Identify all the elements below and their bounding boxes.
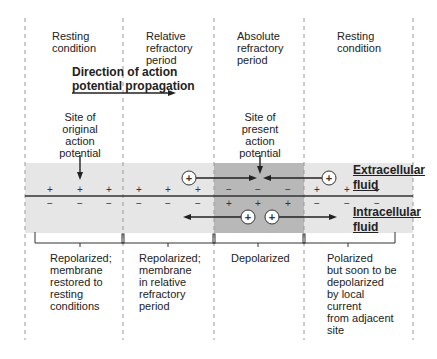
status-line: by local [327,288,397,300]
svg-text:+: + [226,198,232,209]
svg-text:+: + [344,184,350,195]
svg-text:−: − [47,198,53,209]
svg-text:−: − [285,184,291,195]
status-line: restored to [50,276,112,288]
status-line: conditions [50,300,112,312]
site-line: Site of [40,111,120,123]
status-line: Polarized [327,252,397,264]
svg-text:+: + [255,198,261,209]
title-line: Resting [337,30,381,42]
status-line: membrane [50,264,112,276]
svg-text:−: − [226,184,232,195]
status-line: resting [50,288,112,300]
site-line: action [220,135,300,147]
svg-text:+: + [106,184,112,195]
direction-line-2: potential propagation [72,79,195,93]
region-title-absolute-refractory: Absolute refractory period [237,30,283,66]
site-line: potential [220,147,300,159]
status-line: but soon to be [327,264,397,276]
site-line: potential [40,147,120,159]
region-title-resting-1: Resting condition [52,30,96,54]
status-line: depolarized [327,276,397,288]
svg-text:+: + [285,198,291,209]
site-original-label: Site of original action potential [40,111,120,159]
status-relative-refractory: Repolarized; membrane in relative refrac… [139,252,201,312]
region-title-relative-refractory: Relative refractory period [146,30,192,66]
site-present-label: Site of present action potential [220,111,300,159]
title-line: refractory [237,42,283,54]
direction-line-1: Direction of action [72,65,195,79]
svg-text:+: + [314,184,320,195]
status-line: from adjacent [327,312,397,324]
title-line: Relative [146,30,192,42]
region-title-resting-2: Resting condition [337,30,381,54]
direction-label: Direction of action potential propagatio… [72,65,195,93]
svg-text:−: − [344,198,350,209]
intracellular-fluid-label: Intracellular fluid [353,205,421,235]
status-line: membrane [139,264,201,276]
svg-text:−: − [106,198,112,209]
svg-text:+: + [47,184,53,195]
status-line: Repolarized; [50,252,112,264]
status-line: refractory [139,288,201,300]
status-resting-1: Repolarized; membrane restored to restin… [50,252,112,312]
svg-text:−: − [165,198,171,209]
title-line: condition [52,42,96,54]
title-line: Absolute [237,30,283,42]
status-resting-2: Polarized but soon to be depolarized by … [327,252,397,336]
svg-text:−: − [255,184,261,195]
svg-text:+: + [195,184,201,195]
svg-text:−: − [77,198,83,209]
status-line: period [139,300,201,312]
fluid-line: fluid [353,220,421,235]
svg-text:−: − [314,198,320,209]
svg-text:+: + [269,211,275,223]
status-line: site [327,324,397,336]
site-line: present [220,123,300,135]
fluid-line: Extracellular [353,163,425,178]
svg-text:+: + [136,184,142,195]
site-line: original [40,123,120,135]
status-line: in relative [139,276,201,288]
svg-text:+: + [245,211,251,223]
title-line: period [237,54,283,66]
title-line: refractory [146,42,192,54]
fluid-line: fluid [353,178,425,193]
svg-text:+: + [186,172,192,184]
svg-text:−: − [136,198,142,209]
title-line: condition [337,42,381,54]
region-bracket [35,232,395,247]
title-line: Resting [52,30,96,42]
fluid-line: Intracellular [353,205,421,220]
status-line: current [327,300,397,312]
svg-text:+: + [326,172,332,184]
svg-text:−: − [195,198,201,209]
status-absolute-refractory: Depolarized [231,252,290,264]
status-line: Repolarized; [139,252,201,264]
status-line: Depolarized [231,252,290,264]
site-line: action [40,135,120,147]
extracellular-fluid-label: Extracellular fluid [353,163,425,193]
svg-text:+: + [77,184,83,195]
site-line: Site of [220,111,300,123]
svg-text:+: + [165,184,171,195]
